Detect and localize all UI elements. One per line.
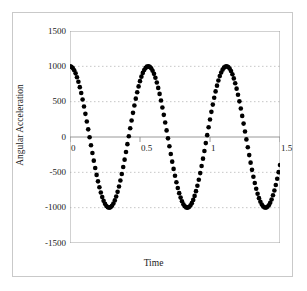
plot-area <box>70 31 280 243</box>
chart-svg <box>70 31 280 243</box>
y-axis-title: Angular Acceleration <box>15 45 25 205</box>
xtick-label: 0 <box>71 144 76 153</box>
chart-figure: 1500 1000 500 0 -500 -1000 -1500 0 0.5 1… <box>0 0 307 291</box>
xtick-label: 0.5 <box>141 144 152 153</box>
ytick-label: -1500 <box>45 239 66 248</box>
ytick-label: 0 <box>62 133 67 142</box>
ytick-label: 1000 <box>48 62 66 71</box>
y-axis-tick-labels: 1500 1000 500 0 -500 -1000 -1500 <box>0 0 66 291</box>
ytick-label: 500 <box>53 97 67 106</box>
xtick-label: 1 <box>211 144 216 153</box>
x-axis-title: Time <box>0 258 307 268</box>
ytick-label: -1000 <box>45 203 66 212</box>
ytick-label: 1500 <box>48 27 66 36</box>
ytick-label: -500 <box>50 168 67 177</box>
xtick-label: 1.5 <box>281 144 292 153</box>
